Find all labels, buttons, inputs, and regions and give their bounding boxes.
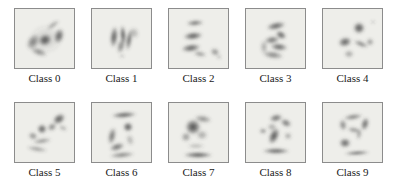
class-image-frame-0[interactable] bbox=[14, 8, 75, 69]
class-image-frame-6[interactable] bbox=[91, 102, 152, 163]
class-image-frame-5[interactable] bbox=[14, 102, 75, 163]
class-label-4: Class 4 bbox=[310, 72, 395, 85]
class-activation-map bbox=[323, 103, 382, 162]
class-cell-4[interactable]: Class 4 bbox=[322, 4, 383, 94]
class-activation-map bbox=[323, 9, 382, 68]
class-activation-map bbox=[169, 103, 228, 162]
class-image-frame-1[interactable] bbox=[91, 8, 152, 69]
class-label-3: Class 3 bbox=[233, 72, 318, 85]
class-image-frame-4[interactable] bbox=[322, 8, 383, 69]
class-cell-0[interactable]: Class 0 bbox=[14, 4, 75, 94]
class-activation-map bbox=[15, 9, 74, 68]
class-label-5: Class 5 bbox=[2, 166, 87, 179]
class-cell-7[interactable]: Class 7 bbox=[168, 98, 229, 188]
class-label-0: Class 0 bbox=[2, 72, 87, 85]
class-image-frame-7[interactable] bbox=[168, 102, 229, 163]
class-cell-3[interactable]: Class 3 bbox=[245, 4, 306, 94]
class-label-9: Class 9 bbox=[310, 166, 395, 179]
class-activation-map bbox=[92, 9, 151, 68]
class-cell-6[interactable]: Class 6 bbox=[91, 98, 152, 188]
class-image-frame-3[interactable] bbox=[245, 8, 306, 69]
class-label-7: Class 7 bbox=[156, 166, 241, 179]
class-cell-8[interactable]: Class 8 bbox=[245, 98, 306, 188]
class-label-1: Class 1 bbox=[79, 72, 164, 85]
class-cell-1[interactable]: Class 1 bbox=[91, 4, 152, 94]
class-image-frame-2[interactable] bbox=[168, 8, 229, 69]
class-label-8: Class 8 bbox=[233, 166, 318, 179]
class-activation-map bbox=[246, 103, 305, 162]
class-grid-row-bottom: Class 5Class 6Class 7Class 8Class 9 bbox=[0, 98, 408, 192]
class-activation-map bbox=[169, 9, 228, 68]
class-cell-5[interactable]: Class 5 bbox=[14, 98, 75, 188]
class-label-6: Class 6 bbox=[79, 166, 164, 179]
class-cell-9[interactable]: Class 9 bbox=[322, 98, 383, 188]
class-cell-2[interactable]: Class 2 bbox=[168, 4, 229, 94]
class-image-frame-8[interactable] bbox=[245, 102, 306, 163]
class-activation-map bbox=[246, 9, 305, 68]
class-image-frame-9[interactable] bbox=[322, 102, 383, 163]
class-label-2: Class 2 bbox=[156, 72, 241, 85]
class-activation-map bbox=[15, 103, 74, 162]
class-activation-map bbox=[92, 103, 151, 162]
class-prototype-figure: Class 0Class 1Class 2Class 3Class 4 Clas… bbox=[0, 0, 408, 195]
class-grid-row-top: Class 0Class 1Class 2Class 3Class 4 bbox=[0, 4, 408, 98]
